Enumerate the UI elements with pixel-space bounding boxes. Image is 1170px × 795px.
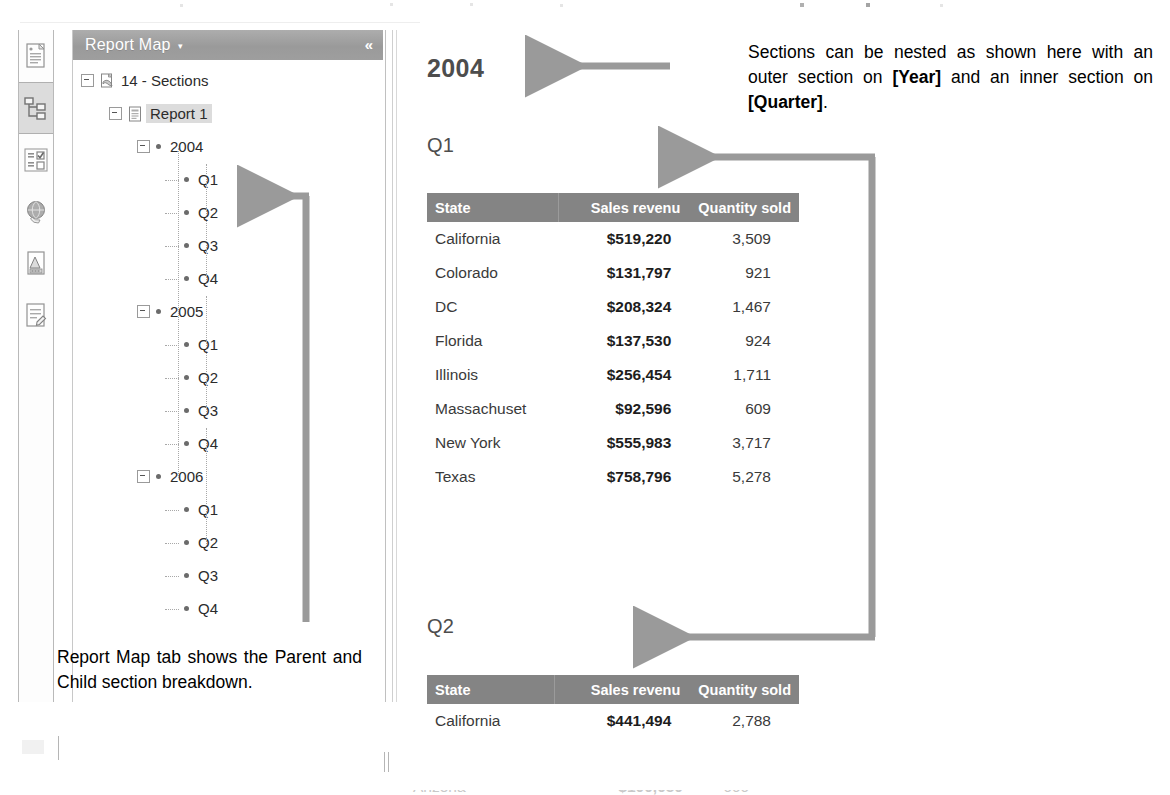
panel-divider-shadow-2	[396, 30, 397, 702]
column-header-quantity-sold[interactable]: Quantity sold	[689, 193, 799, 222]
annotation-period: .	[823, 92, 828, 112]
web-services-globe-icon-button[interactable]	[19, 186, 53, 238]
tree-node-label: 2006	[170, 469, 203, 484]
table-row[interactable]: Texas$758,7965,278	[427, 460, 799, 494]
document-properties-icon	[23, 42, 49, 70]
column-header-quantity-sold[interactable]: Quantity sold	[689, 675, 799, 704]
tree-node-q3[interactable]: Q3	[73, 229, 383, 262]
report-map-tree-icon-button[interactable]	[19, 82, 53, 134]
table-row[interactable]: DC$208,3241,467	[427, 290, 799, 324]
tree-connector-line	[165, 345, 179, 346]
tree-node-label: Q3	[198, 568, 218, 583]
tree-node-label: Q2	[198, 535, 218, 550]
table-row[interactable]: Florida$137,530924	[427, 324, 799, 358]
table-row[interactable]: California$519,2203,509	[427, 222, 799, 256]
column-header-state[interactable]: State	[427, 193, 558, 222]
cell-quantity-sold: 3,509	[689, 222, 799, 256]
input-controls-icon	[23, 146, 49, 174]
rail-footer-placeholder	[22, 740, 44, 754]
tree-node-q1[interactable]: Q1	[73, 493, 383, 526]
cell-sales-revenue: $131,797	[558, 256, 689, 290]
panel-title: Report Map	[85, 36, 171, 54]
section-bullet-icon	[184, 375, 189, 380]
tree-node-q4[interactable]: Q4	[73, 427, 383, 460]
tree-node-q4[interactable]: Q4	[73, 592, 383, 625]
cell-state: California	[427, 704, 554, 738]
section-bullet-icon	[184, 243, 189, 248]
cell-sales-revenue: $758,796	[558, 460, 689, 494]
tree-node-2006[interactable]: 2006	[73, 460, 383, 493]
quarter-section-title-q1: Q1	[427, 134, 454, 157]
collapse-panel-icon[interactable]: «	[365, 36, 371, 53]
cell-state: Massachuset	[427, 392, 558, 426]
tree-connector-line	[165, 543, 179, 544]
table-header-row: State Sales revenu Quantity sold	[427, 193, 799, 222]
cell-state: Florida	[427, 324, 558, 358]
panel-divider[interactable]	[385, 30, 386, 702]
left-icon-rail[interactable]	[18, 30, 54, 702]
table-row[interactable]: California$441,4942,788	[427, 704, 799, 738]
tree-collapse-toggle[interactable]	[137, 140, 150, 153]
chevron-down-icon[interactable]: ▾	[178, 42, 183, 51]
tree-connector-line	[206, 164, 207, 284]
tree-node-q2[interactable]: Q2	[73, 526, 383, 559]
tree-node-q3[interactable]: Q3	[73, 394, 383, 427]
tree-node-2004[interactable]: 2004	[73, 130, 383, 163]
report-map-header[interactable]: Report Map ▾ «	[73, 30, 383, 60]
table-row[interactable]: New York$555,9833,717	[427, 426, 799, 460]
tree-node-label: Q4	[198, 436, 218, 451]
tree-collapse-toggle[interactable]	[137, 470, 150, 483]
document-icon	[100, 73, 121, 89]
table-row[interactable]: Arizona $100,050 666	[405, 790, 777, 795]
tree-node-label: 2005	[170, 304, 203, 319]
column-header-sales-revenue[interactable]: Sales revenu	[558, 193, 689, 222]
section-bullet-icon	[184, 540, 189, 545]
scan-artifact	[940, 4, 943, 7]
tree-node-14-sections[interactable]: 14 - Sections	[73, 64, 383, 97]
sales-table-q2: State Sales revenu Quantity sold Califor…	[427, 675, 799, 738]
section-bullet-icon	[184, 606, 189, 611]
tree-node-report-1[interactable]: Report 1	[73, 97, 383, 130]
tree-node-2005[interactable]: 2005	[73, 295, 383, 328]
available-objects-icon-button[interactable]	[19, 238, 53, 290]
scan-artifact	[800, 3, 804, 7]
table-row[interactable]: Illinois$256,4541,711	[427, 358, 799, 392]
column-header-state[interactable]: State	[427, 675, 554, 704]
tree-collapse-toggle[interactable]	[137, 305, 150, 318]
table-row[interactable]: Massachuset$92,596609	[427, 392, 799, 426]
cell-quantity-sold: 1,711	[689, 358, 799, 392]
cell-sales-revenue: $137,530	[558, 324, 689, 358]
cell-sales-revenue: $256,454	[558, 358, 689, 392]
tree-node-q1[interactable]: Q1	[73, 328, 383, 361]
tree-node-q1[interactable]: Q1	[73, 163, 383, 196]
tree-collapse-toggle[interactable]	[81, 74, 94, 87]
tree-node-q3[interactable]: Q3	[73, 559, 383, 592]
tree-node-label: 14 - Sections	[121, 73, 209, 88]
panel-divider-shadow	[392, 30, 393, 702]
tree-node-label: Q3	[198, 403, 218, 418]
tree-node-q4[interactable]: Q4	[73, 262, 383, 295]
tree-collapse-toggle[interactable]	[109, 107, 122, 120]
tree-connector-line	[165, 213, 179, 214]
cell-state: Colorado	[427, 256, 558, 290]
year-section-title: 2004	[427, 54, 484, 83]
document-properties-icon-button[interactable]	[19, 30, 53, 82]
tree-node-q2[interactable]: Q2	[73, 361, 383, 394]
tree-node-q2[interactable]: Q2	[73, 196, 383, 229]
column-header-sales-revenue[interactable]: Sales revenu	[554, 675, 689, 704]
available-objects-icon	[23, 250, 49, 278]
document-summary-icon-button[interactable]	[19, 290, 53, 342]
table-row[interactable]: Colorado$131,797921	[427, 256, 799, 290]
tree-node-label: Q4	[198, 601, 218, 616]
annotation-year-token: [Year]	[892, 67, 941, 87]
report-map-tree[interactable]: 14 - SectionsReport 12004Q1Q2Q3Q42005Q1Q…	[73, 64, 383, 625]
cell-sales-revenue: $92,596	[558, 392, 689, 426]
section-bullet-icon	[184, 177, 189, 182]
section-bullet-icon	[156, 474, 161, 479]
cell-quantity-sold: 2,788	[689, 704, 799, 738]
panel-splitter-grip[interactable]	[384, 752, 392, 772]
tree-node-label: Q1	[198, 337, 218, 352]
input-controls-icon-button[interactable]	[19, 134, 53, 186]
cell-sales-revenue: $555,983	[558, 426, 689, 460]
rail-footer-tick	[58, 736, 59, 760]
